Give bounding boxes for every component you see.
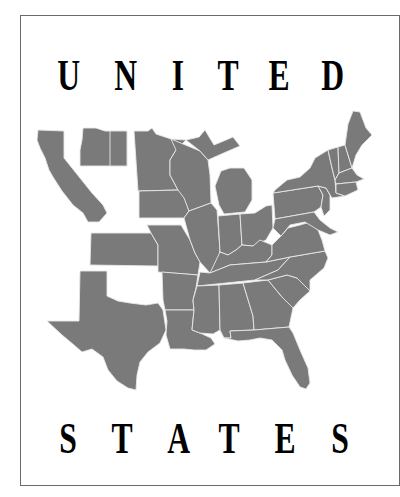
- state-florida: [224, 327, 310, 389]
- title-letter: T: [218, 422, 240, 456]
- title-letter: T: [111, 422, 133, 456]
- title-letter: S: [57, 422, 79, 456]
- state-michigan: [215, 168, 252, 214]
- state-idaho: [110, 131, 127, 166]
- state-mississippi: [192, 285, 220, 334]
- state-texas: [47, 271, 166, 390]
- title-letter: E: [274, 422, 296, 456]
- title-states: S T A T E S: [0, 422, 390, 456]
- state-connecticut: [336, 182, 358, 196]
- title-letter: S: [329, 422, 351, 456]
- state-kansas: [90, 233, 158, 266]
- title-letter: A: [167, 422, 189, 456]
- state-arkansas: [162, 272, 198, 310]
- state-maine: [345, 111, 372, 168]
